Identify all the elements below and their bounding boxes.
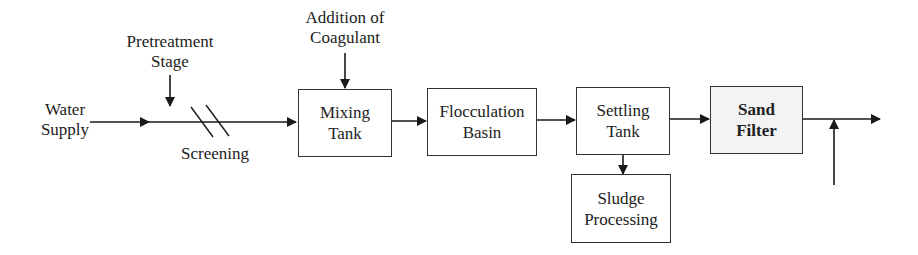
pretreatment-line2: Stage xyxy=(115,52,225,72)
water-supply-label: Water Supply xyxy=(30,100,100,140)
settling-tank-line1: Settling xyxy=(597,100,650,121)
coagulant-line1: Addition of xyxy=(290,8,400,28)
mixing-tank-box: Mixing Tank xyxy=(298,89,392,157)
flow-arrow-icon xyxy=(140,117,150,127)
sludge-line2: Processing xyxy=(584,209,658,230)
inlet-line xyxy=(90,117,296,127)
coagulant-line2: Coagulant xyxy=(290,28,400,48)
sand-filter-line1: Sand xyxy=(736,99,777,120)
screening-symbol xyxy=(191,105,229,137)
mixing-tank-line2: Tank xyxy=(320,123,370,144)
sand-filter-box: Sand Filter xyxy=(710,86,803,154)
coagulant-label: Addition of Coagulant xyxy=(290,8,400,48)
water-supply-line1: Water xyxy=(30,100,100,120)
flocculation-line2: Basin xyxy=(440,122,525,143)
mixing-tank-line1: Mixing xyxy=(320,102,370,123)
water-supply-line2: Supply xyxy=(30,120,100,140)
flocculation-line1: Flocculation xyxy=(440,101,525,122)
sludge-processing-box: Sludge Processing xyxy=(571,174,671,243)
flocculation-basin-box: Flocculation Basin xyxy=(427,88,537,156)
sand-filter-line2: Filter xyxy=(736,120,777,141)
pretreatment-line1: Pretreatment xyxy=(115,32,225,52)
settling-tank-box: Settling Tank xyxy=(576,87,670,155)
settling-tank-line2: Tank xyxy=(597,121,650,142)
screening-label: Screening xyxy=(170,144,260,164)
sludge-line1: Sludge xyxy=(584,188,658,209)
pretreatment-label: Pretreatment Stage xyxy=(115,32,225,72)
